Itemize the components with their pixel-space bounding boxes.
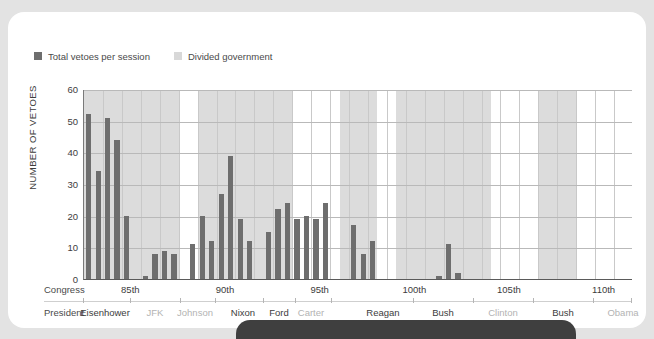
bar — [266, 232, 271, 280]
president-label-nixon-3: Nixon — [231, 307, 255, 318]
bar — [455, 273, 460, 279]
bar — [247, 241, 252, 279]
y-axis-ticks: 6050403020100 — [45, 90, 78, 280]
y-tick-20: 20 — [48, 211, 78, 222]
bar — [285, 203, 290, 279]
president-tick — [473, 298, 474, 303]
president-label-obama-10: Obama — [607, 307, 638, 318]
congress-tick-100th: 100th — [402, 284, 426, 295]
bar — [162, 251, 167, 280]
president-tick — [331, 298, 332, 303]
legend-label-total-vetoes: Total vetoes per session — [48, 51, 150, 62]
plot-area — [83, 90, 632, 280]
congress-tick-95th: 95th — [310, 284, 329, 295]
president-row-label: President — [44, 307, 84, 318]
president-tick — [263, 298, 264, 303]
president-tick — [180, 298, 181, 303]
president-label-jfk-1: JFK — [147, 307, 164, 318]
president-label-johnson-2: Johnson — [177, 307, 213, 318]
bar — [209, 241, 214, 279]
president-tick — [413, 298, 414, 303]
president-label-bush-9: Bush — [552, 307, 574, 318]
congress-tick-105th: 105th — [497, 284, 521, 295]
bar — [313, 219, 318, 279]
president-tick — [215, 298, 216, 303]
chart-legend: Total vetoes per session Divided governm… — [34, 49, 290, 63]
y-tick-60: 60 — [48, 84, 78, 95]
bar — [190, 244, 195, 279]
plot-canvas — [83, 90, 632, 280]
legend-label-divided-government: Divided government — [188, 51, 273, 62]
bar — [200, 216, 205, 279]
president-tick — [295, 298, 296, 303]
legend-swatch-dark-icon — [34, 52, 42, 60]
president-label-clinton-8: Clinton — [488, 307, 518, 318]
chart-card: Total vetoes per session Divided governm… — [8, 12, 646, 328]
bar — [171, 254, 176, 279]
legend-swatch-light-icon — [174, 52, 182, 60]
president-label-reagan-6: Reagan — [366, 307, 399, 318]
bar — [152, 254, 157, 279]
legend-item-divided-government: Divided government — [174, 51, 273, 62]
president-label-ford-4: Ford — [269, 307, 289, 318]
bar — [275, 209, 280, 279]
bar — [238, 219, 243, 279]
y-tick-30: 30 — [48, 179, 78, 190]
y-axis-title: NUMBER OF VETOES — [27, 68, 38, 208]
bar — [294, 219, 299, 279]
congress-row-label: Congress — [44, 284, 85, 295]
bar — [114, 140, 119, 279]
bottom-tab-bar[interactable] — [236, 320, 576, 339]
h-gridline — [84, 248, 632, 249]
bar — [370, 241, 375, 279]
y-tick-50: 50 — [48, 116, 78, 127]
h-gridline — [84, 122, 632, 123]
bar — [351, 225, 356, 279]
president-tick — [130, 298, 131, 303]
legend-item-total-vetoes: Total vetoes per session — [34, 51, 150, 62]
congress-tick-90th: 90th — [216, 284, 235, 295]
bar — [436, 276, 441, 279]
bar — [143, 276, 148, 279]
h-gridline — [84, 185, 632, 186]
bar — [361, 254, 366, 279]
bar — [323, 203, 328, 279]
bar — [219, 194, 224, 280]
bar — [86, 114, 91, 279]
congress-tick-85th: 85th — [121, 284, 140, 295]
president-tick-marks — [83, 298, 632, 304]
bar — [105, 118, 110, 280]
president-label-eisenhower-0: Eisenhower — [80, 307, 130, 318]
bar — [124, 216, 129, 279]
president-tick — [533, 298, 534, 303]
president-tick — [593, 298, 594, 303]
bar — [446, 244, 451, 279]
y-tick-40: 40 — [48, 147, 78, 158]
y-tick-10: 10 — [48, 242, 78, 253]
congress-tick-110th: 110th — [592, 284, 615, 295]
h-gridline — [84, 217, 632, 218]
bar — [228, 156, 233, 280]
president-label-carter-5: Carter — [298, 307, 324, 318]
h-gridline — [84, 153, 632, 154]
president-label-bush-7: Bush — [432, 307, 454, 318]
president-tick — [631, 298, 632, 303]
president-tick — [83, 298, 84, 303]
chart-page: Total vetoes per session Divided governm… — [0, 0, 654, 339]
bar — [304, 216, 309, 279]
bar — [96, 171, 101, 279]
h-gridline — [84, 90, 632, 91]
